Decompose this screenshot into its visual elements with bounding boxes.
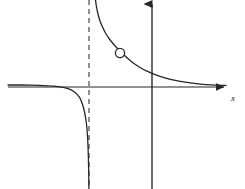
curve-left-branch xyxy=(8,85,89,189)
x-axis-label: x xyxy=(230,93,235,103)
graph-canvas: x xyxy=(0,0,245,189)
curve-right-branch xyxy=(96,0,227,86)
function-graph-figure: x xyxy=(0,0,245,189)
removable-discontinuity-hole xyxy=(115,48,124,57)
